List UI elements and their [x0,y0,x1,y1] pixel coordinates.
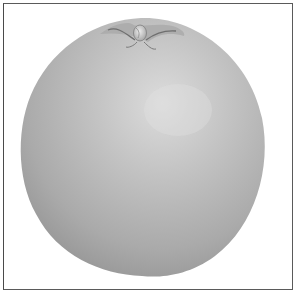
fruit-body [21,18,265,277]
fruit-illustration [0,0,299,292]
stem [134,25,147,41]
highlight [144,84,212,136]
